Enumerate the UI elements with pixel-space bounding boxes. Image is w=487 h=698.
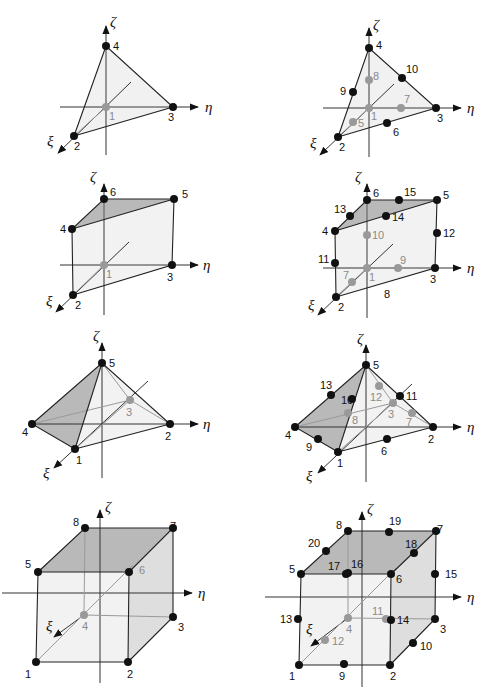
node-3 [169, 103, 177, 111]
svg-text:4: 4 [60, 223, 66, 235]
svg-text:9: 9 [400, 254, 406, 266]
svg-text:1: 1 [76, 454, 82, 466]
svg-text:η: η [467, 260, 474, 276]
svg-text:1: 1 [337, 457, 343, 469]
svg-text:5: 5 [289, 563, 295, 575]
svg-text:3: 3 [430, 273, 436, 285]
svg-text:η: η [467, 419, 474, 435]
svg-text:1: 1 [369, 271, 375, 283]
svg-text:7: 7 [170, 520, 176, 532]
svg-text:5: 5 [109, 357, 115, 369]
svg-text:5: 5 [182, 188, 188, 200]
svg-text:ξ: ξ [310, 135, 317, 151]
svg-text:ξ: ξ [46, 293, 53, 309]
svg-text:4: 4 [82, 620, 88, 632]
svg-text:8: 8 [352, 414, 358, 426]
label-node-1: 1 [109, 110, 115, 122]
svg-text:2: 2 [338, 301, 344, 313]
panel-pyr13: 1 2 3 4 5 6 7 8 9 10 11 12 13 ζ η ξ [285, 331, 474, 484]
svg-text:4: 4 [22, 426, 28, 438]
svg-text:2: 2 [339, 141, 345, 153]
svg-text:12: 12 [370, 391, 382, 403]
panel-tet10: 1 2 3 4 5 6 7 8 9 10 ζ η ξ [310, 17, 474, 157]
panel-pyr5: 1 2 3 4 5 ζ η ξ [22, 328, 210, 481]
svg-text:η: η [467, 100, 474, 116]
svg-text:1: 1 [371, 110, 377, 122]
svg-text:6: 6 [396, 573, 402, 585]
svg-text:20: 20 [308, 537, 320, 549]
panel-wedge6: 1 2 3 4 5 6 ζ η ξ [46, 169, 210, 315]
svg-text:11: 11 [318, 253, 329, 265]
svg-text:15: 15 [404, 186, 416, 198]
svg-text:6: 6 [393, 126, 399, 138]
label-node-2: 2 [74, 140, 80, 152]
svg-text:13: 13 [334, 203, 346, 215]
svg-text:5: 5 [25, 558, 31, 570]
svg-text:4: 4 [285, 429, 291, 441]
panel-wedge15: 1 2 3 4 5 6 7 8 9 10 11 12 13 14 15 ζ η … [308, 169, 474, 318]
label-node-4: 4 [113, 40, 119, 52]
svg-text:18: 18 [405, 538, 417, 550]
svg-text:7: 7 [437, 523, 443, 535]
svg-text:2: 2 [165, 430, 171, 442]
svg-text:ζ: ζ [373, 17, 380, 33]
svg-text:6: 6 [373, 187, 379, 199]
svg-text:ξ: ξ [308, 297, 315, 313]
svg-text:6: 6 [110, 186, 116, 198]
svg-text:14: 14 [392, 211, 404, 223]
svg-text:12: 12 [332, 635, 344, 647]
svg-text:2: 2 [390, 670, 396, 682]
svg-text:3: 3 [178, 621, 184, 633]
panel-hex8: 1 2 3 4 5 6 7 8 ζ η ξ [2, 499, 205, 683]
svg-text:6: 6 [381, 445, 387, 457]
svg-text:4: 4 [376, 39, 382, 51]
svg-text:ζ: ζ [357, 331, 364, 347]
svg-text:9: 9 [339, 670, 345, 682]
xi-label: ξ [47, 133, 54, 149]
svg-text:η: η [467, 589, 474, 605]
svg-text:19: 19 [389, 515, 401, 527]
svg-text:2: 2 [127, 668, 133, 680]
svg-text:8: 8 [384, 288, 390, 300]
svg-text:4: 4 [346, 623, 352, 635]
svg-text:13: 13 [320, 379, 332, 391]
panel-tet4: 1 2 3 4 ζ η ξ [47, 14, 212, 155]
svg-text:10: 10 [406, 63, 418, 75]
svg-text:ζ: ζ [93, 328, 100, 344]
svg-text:7: 7 [404, 93, 410, 105]
svg-text:14: 14 [397, 614, 409, 626]
svg-text:3: 3 [388, 408, 394, 420]
svg-text:7: 7 [343, 269, 349, 281]
svg-text:3: 3 [437, 112, 443, 124]
svg-text:1: 1 [25, 668, 31, 680]
svg-text:η: η [203, 416, 210, 432]
svg-text:17: 17 [328, 560, 340, 572]
svg-text:6: 6 [139, 564, 145, 576]
svg-text:8: 8 [373, 70, 379, 82]
svg-text:10: 10 [372, 229, 384, 241]
svg-text:5: 5 [373, 359, 379, 371]
svg-text:3: 3 [126, 406, 132, 418]
svg-text:ζ: ζ [90, 169, 97, 185]
svg-text:ξ: ξ [306, 468, 313, 484]
svg-text:3: 3 [440, 623, 446, 635]
node-2 [70, 132, 78, 140]
svg-text:8: 8 [73, 516, 79, 528]
svg-text:7: 7 [406, 416, 412, 428]
svg-text:16: 16 [351, 558, 363, 570]
node-4 [102, 42, 110, 50]
svg-text:9: 9 [340, 85, 346, 97]
zeta-label: ζ [110, 14, 117, 30]
svg-text:ξ: ξ [306, 621, 313, 637]
svg-text:ζ: ζ [367, 501, 374, 517]
svg-text:10: 10 [420, 640, 432, 652]
svg-text:2: 2 [75, 299, 81, 311]
svg-text:1: 1 [106, 268, 112, 280]
svg-text:ζ: ζ [105, 499, 112, 515]
svg-text:3: 3 [167, 271, 173, 283]
label-node-3: 3 [168, 111, 174, 123]
svg-text:12: 12 [443, 227, 455, 239]
svg-text:4: 4 [322, 225, 328, 237]
svg-text:η: η [198, 585, 205, 601]
svg-text:ξ: ξ [43, 465, 50, 481]
